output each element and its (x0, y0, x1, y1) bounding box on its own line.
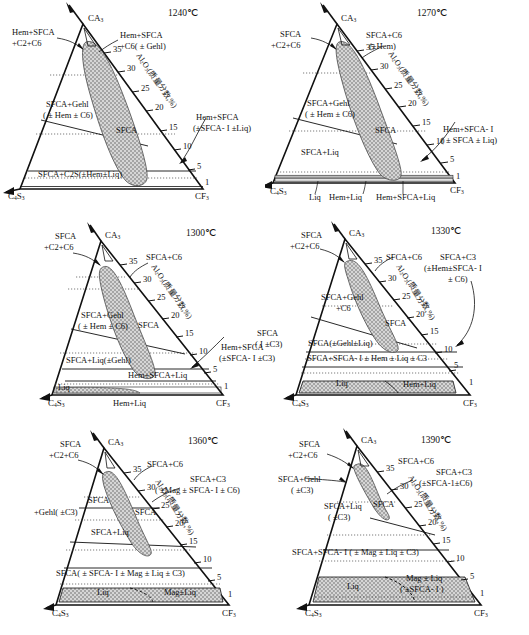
tick-35: 35 (133, 465, 142, 474)
panel-1330c: 1330℃ CA3 C4S3 CF3 SFCA +C2+C6 SFCA+C6 S… (265, 211, 529, 422)
annotation-c: SFCA+C6 (146, 253, 182, 262)
tick-30: 30 (127, 64, 136, 73)
tick-35: 35 (386, 464, 395, 473)
tick-25: 25 (394, 81, 403, 90)
corner-label-bottom-left: C4S3 (292, 399, 309, 409)
panel-1270c: 1270℃ CA3 C4S3 CF3 SFCA +C2+C6 SFCA+C6 (… (265, 0, 529, 211)
corner-label-top: CA3 (349, 229, 364, 239)
region-label-sfca: SFCA (373, 500, 394, 509)
tick-1: 1 (205, 178, 209, 187)
annotation-c: SFCA+C6 (147, 460, 183, 469)
tick-1: 1 (456, 172, 460, 181)
corner-label-top: CA3 (88, 14, 103, 24)
corner-label-bottom-right: CF3 (195, 192, 209, 202)
region-label-j: SFCA+Liq (301, 148, 339, 157)
annotation-a: Hem+SFCA (12, 28, 55, 37)
region-label-l: Liq (347, 582, 359, 591)
annotation-h: Hem+SFCA (196, 113, 239, 122)
corner-label-top: CA3 (361, 436, 376, 446)
corner-label-bottom-right: CF3 (463, 399, 477, 409)
tick-35: 35 (366, 43, 375, 52)
region-label-f: +Gehl( ±C3) (34, 508, 78, 517)
corner-label-bottom-left: C4S3 (48, 399, 65, 409)
tick-1: 1 (480, 589, 484, 598)
annotation-a: SFCA (301, 231, 322, 240)
annotation-i: ( I ±C3) (255, 340, 282, 349)
panel-temperature: 1330℃ (431, 227, 461, 237)
region-label-m: Mag ± Liq (406, 574, 442, 583)
tick-25: 25 (141, 84, 150, 93)
tick-10: 10 (456, 554, 465, 563)
tick-5: 5 (213, 365, 217, 374)
annotation-a: SFCA (299, 440, 320, 449)
annotation-c: SFCA+C6 (398, 457, 434, 466)
tick-30: 30 (400, 482, 409, 491)
panel-1390c: 1390℃ CA3 C4S3 CF3 SFCA +C2+C6 SFCA+C6 S… (265, 422, 529, 633)
region-label-m2: ( ±SFCA- I ) (400, 585, 444, 594)
tick-20: 20 (155, 103, 164, 112)
annotation-c: SFCA+C6 (366, 31, 402, 40)
region-label-e: SFCA+Gehl (321, 293, 364, 302)
region-label-j: SFCA+Liq (91, 528, 129, 537)
corner-label-bottom-left: C4S3 (305, 609, 322, 619)
region-label-k: SFCA+SFCA- I ( ± Mag ± Liq ± C3) (292, 548, 419, 557)
tick-20: 20 (171, 311, 180, 320)
phase-diagram-figure: 1240℃ CA3 C4S3 CF3 Hem+SFCA +C2+C6 Hem+S… (0, 0, 529, 635)
region-label-sfca: SFCA (375, 126, 396, 135)
corner-label-bottom-left: C4S3 (8, 192, 25, 202)
region-label-l: Liq (336, 379, 348, 388)
tick-5: 5 (197, 162, 201, 171)
corner-label-bottom-right: CF3 (216, 399, 230, 409)
tick-30: 30 (143, 275, 152, 284)
annotation-d2: (±Hem±SFCA- I (424, 264, 482, 273)
tick-15: 15 (430, 327, 439, 336)
region-label-sfca: SFCA (385, 319, 406, 328)
tick-1: 1 (469, 378, 473, 387)
tick-5: 5 (217, 573, 221, 582)
tick-15: 15 (442, 536, 451, 545)
panel-temperature: 1390℃ (421, 436, 451, 446)
region-label-e: SFCA+Gehl (278, 475, 321, 484)
corner-label-bottom-right: CF3 (450, 186, 464, 196)
tick-35: 35 (113, 45, 122, 54)
region-label-m: Hem+SFCA+Liq (376, 193, 435, 202)
region-label-f: ( ± Hem ± C6) (78, 322, 128, 331)
panel-temperature: 1360℃ (188, 437, 218, 447)
corner-label-top: CA3 (341, 14, 356, 24)
tick-5: 5 (454, 361, 458, 370)
region-label-k: SFCA( ± SFCA- I ± Mag ± Liq ± C3) (56, 569, 185, 578)
corner-label-bottom-right: CF3 (474, 609, 488, 619)
annotation-b: +C2+C6 (290, 242, 319, 251)
tick-25: 25 (402, 292, 411, 301)
tick-10: 10 (436, 137, 445, 146)
panel-1360c-graphic (0, 422, 264, 635)
annotation-h: SFCA (257, 329, 278, 338)
region-label-f: ( ±C3) (291, 486, 313, 495)
tick-15: 15 (189, 537, 198, 546)
panel-1300c: 1300℃ CA3 C4S3 CF3 SFCA +C2+C6 SFCA+C6 S… (0, 211, 264, 422)
annotation-b: +C2+C6 (44, 243, 73, 252)
annotation-b: +C2+C6 (49, 451, 78, 460)
region-label-l: Liq (97, 588, 109, 597)
corner-label-bottom-left: C4S3 (270, 187, 287, 197)
tick-1: 1 (224, 382, 228, 391)
tick-10: 10 (183, 142, 192, 151)
region-label-j: SFCA+C2S(±Hem±Liq) (38, 170, 122, 179)
region-label-j: SFCA+Liq(±Gehl) (66, 356, 131, 365)
tick-15: 15 (422, 118, 431, 127)
annotation-i: (±SFCA- I ±Liq) (193, 124, 251, 133)
annotation-d: SFCA+C3 (190, 475, 226, 484)
region-label-f: ( ± Hem ± C6) (43, 111, 93, 120)
region-label-k: Liq (309, 193, 321, 202)
corner-label-bottom-right: CF3 (222, 609, 236, 619)
annotation-a: SFCA (55, 232, 76, 241)
annotation-h: Hem+SFCA- I (443, 125, 493, 134)
tick-10: 10 (203, 555, 212, 564)
tick-35: 35 (129, 257, 138, 266)
annotation-c: SFCA+C6 (386, 253, 422, 262)
region-label-sfca: SFCA (135, 508, 156, 517)
region-label-m: Mag±Liq (164, 588, 196, 597)
annotation-d3: ± C6) (448, 275, 468, 284)
tick-30: 30 (388, 274, 397, 283)
region-label-sfca: SFCA (116, 126, 137, 135)
